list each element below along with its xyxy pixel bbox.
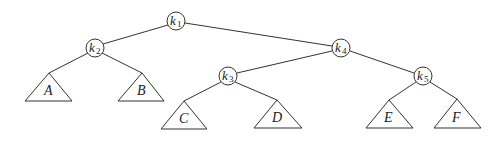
node-key: k	[417, 68, 423, 83]
edge-k4-k5	[350, 51, 414, 73]
subtree-C: C	[161, 101, 207, 129]
node-subscript: 3	[229, 74, 234, 84]
node-k3: k 3	[219, 67, 237, 85]
subtree-label: D	[271, 110, 282, 125]
node-subscript: 1	[177, 19, 182, 29]
node-k1: k 1	[167, 12, 185, 30]
subtree-label: F	[451, 110, 461, 125]
edge-k4-k3	[237, 51, 332, 73]
node-subscript: 2	[96, 46, 101, 56]
node-k4: k 4	[332, 39, 350, 57]
subtree-E: E	[366, 100, 413, 128]
node-key: k	[170, 13, 176, 28]
edge-k1-k2	[103, 25, 168, 44]
node-key: k	[222, 68, 228, 83]
edge-k2-A	[49, 53, 88, 73]
subtree-F: F	[434, 99, 481, 128]
node-k5: k 5	[414, 67, 432, 85]
subtree-label: E	[383, 110, 393, 125]
edge-k3-C	[184, 82, 221, 101]
edges	[49, 23, 457, 101]
tree-diagram: A B C D E F k 1 k 2 k 4 k 3 k	[0, 0, 503, 141]
edge-k1-k4	[185, 23, 332, 46]
subtree-label: B	[137, 83, 146, 98]
edge-k2-B	[102, 53, 142, 73]
subtree-label: C	[179, 111, 189, 126]
subtree-A: A	[25, 73, 72, 101]
node-key: k	[89, 40, 95, 55]
edge-k5-E	[389, 82, 416, 100]
node-subscript: 5	[424, 74, 429, 84]
subtree-B: B	[118, 73, 164, 101]
node-subscript: 4	[342, 46, 347, 56]
subtree-D: D	[254, 100, 302, 128]
edge-k3-D	[235, 82, 277, 100]
node-k2: k 2	[86, 39, 104, 57]
subtree-label: A	[43, 83, 53, 98]
edge-k5-F	[430, 82, 457, 99]
node-key: k	[335, 40, 341, 55]
